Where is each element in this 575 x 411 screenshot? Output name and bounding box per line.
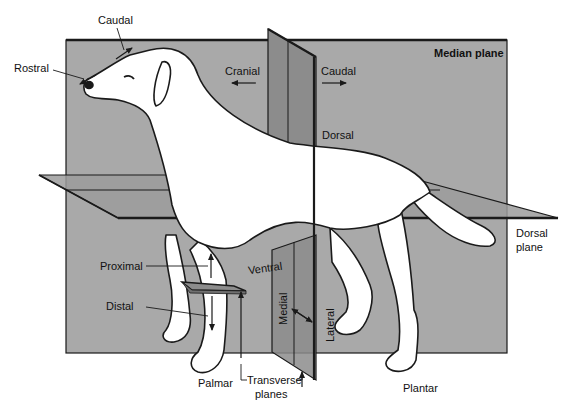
diagram-canvas [0, 0, 575, 411]
label-proximal: Proximal [100, 260, 143, 273]
label-plantar: Plantar [403, 382, 438, 395]
label-medial: Medial [277, 293, 290, 325]
label-transverse-2: planes [255, 388, 287, 401]
label-caudal: Caudal [321, 65, 356, 78]
anatomy-diagram: Caudal Rostral Cranial Caudal Median pla… [0, 0, 575, 411]
label-dorsal: Dorsal [322, 129, 354, 142]
label-dorsal-plane-1: Dorsal [516, 227, 548, 240]
label-caudal-head: Caudal [98, 14, 133, 27]
label-median-plane: Median plane [434, 47, 504, 60]
label-rostral: Rostral [14, 62, 49, 75]
label-distal: Distal [106, 300, 134, 313]
label-cranial: Cranial [225, 65, 260, 78]
label-palmar: Palmar [198, 377, 233, 390]
label-dorsal-plane-2: plane [516, 241, 543, 254]
label-lateral: Lateral [324, 308, 337, 342]
label-transverse-1: Transverse [247, 374, 302, 387]
